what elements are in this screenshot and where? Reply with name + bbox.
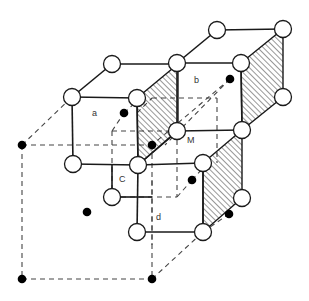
- open-atom: [104, 56, 121, 73]
- open-atom: [169, 123, 186, 140]
- solid-edge: [73, 164, 138, 165]
- label-a: a: [92, 108, 97, 118]
- open-atom: [129, 90, 146, 107]
- dashed-edge: [152, 232, 203, 279]
- dashed-edge: [22, 97, 72, 145]
- label-d: d: [156, 212, 161, 222]
- open-atom: [275, 89, 292, 106]
- filled-atom: [83, 208, 92, 217]
- open-atom: [234, 190, 251, 207]
- solid-edge: [138, 163, 203, 165]
- filled-atom: [148, 141, 157, 150]
- open-atom: [65, 156, 82, 173]
- open-atom: [209, 22, 226, 39]
- solid-edge: [137, 98, 138, 165]
- filled-atom: [148, 275, 157, 284]
- filled-atom: [18, 141, 27, 150]
- label-b: b: [194, 75, 199, 85]
- open-atom: [129, 224, 146, 241]
- solid-edge: [72, 97, 73, 164]
- dashed-edges: [22, 79, 230, 279]
- label-c: C: [119, 174, 126, 184]
- filled-atom: [188, 176, 197, 185]
- filled-atom: [120, 109, 129, 118]
- filled-atom: [225, 210, 234, 219]
- open-atom: [169, 55, 186, 72]
- open-atom: [195, 224, 212, 241]
- solid-edge: [177, 130, 242, 131]
- crystal-structure-diagram: a b C d M: [0, 0, 309, 301]
- solid-edge: [217, 29, 283, 30]
- filled-atom: [18, 275, 27, 284]
- open-atom: [130, 157, 147, 174]
- open-atom: [195, 155, 212, 172]
- open-atom: [64, 89, 81, 106]
- filled-atom: [226, 75, 235, 84]
- open-atom: [233, 55, 250, 72]
- solid-edge: [72, 97, 137, 98]
- open-atom: [275, 21, 292, 38]
- open-atom: [234, 122, 251, 139]
- solid-edge: [241, 63, 242, 130]
- open-atom: [104, 189, 121, 206]
- hatched-face-a: [137, 64, 178, 165]
- filled-atoms: [18, 75, 235, 284]
- hatched-face-b: [241, 29, 283, 130]
- hatched-face-d: [203, 130, 242, 232]
- label-m: M: [187, 135, 195, 145]
- solid-edge: [137, 165, 138, 232]
